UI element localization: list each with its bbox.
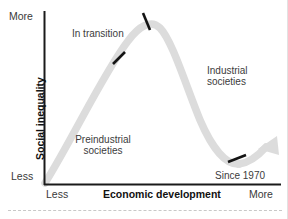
annotation-industrial-societies: Industrial societies (207, 65, 277, 87)
bottom-dashed-divider (8, 210, 282, 211)
annotation-industrial-line2: societies (207, 76, 277, 87)
x-axis-title: Economic development (103, 189, 221, 201)
y-axis-bottom-label: Less (11, 171, 33, 183)
annotation-in-transition: In transition (72, 28, 124, 39)
y-axis-top-label: More (9, 11, 33, 23)
annotation-preindustrial-societies: Preindustrial societies (70, 134, 136, 156)
kuznets-curve-figure: More Less Social inequality Less Economi… (0, 0, 288, 219)
annotation-industrial-line1: Industrial (207, 65, 277, 76)
y-axis-title-text: Social inequality (34, 77, 46, 160)
annotation-preindustrial-line1: Preindustrial (70, 134, 136, 145)
annotation-preindustrial-line2: societies (70, 145, 136, 156)
x-axis-right-label: More (249, 189, 273, 201)
x-axis-left-label: Less (46, 189, 68, 201)
right-border-line (287, 0, 288, 219)
annotation-since-1970: Since 1970 (215, 170, 265, 181)
y-axis-title: Social inequality (34, 77, 46, 160)
